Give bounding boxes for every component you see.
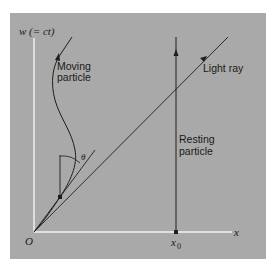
spacetime-diagram: w (= ct) O x x 0 Moving particle Light r… <box>0 0 278 272</box>
w-axis-label: w (= ct) <box>19 25 55 38</box>
angle-theta-label: θ <box>81 152 86 162</box>
diagram-panel <box>10 13 266 259</box>
moving-particle-label-line2: particle <box>57 71 91 83</box>
resting-particle-label-line2: particle <box>179 145 213 157</box>
x0-label: x <box>170 236 176 248</box>
x-axis-label: x <box>233 226 239 238</box>
origin-label: O <box>25 235 33 247</box>
light-ray-label: Light ray <box>203 62 244 74</box>
x0-subscript: 0 <box>177 242 181 251</box>
x0-point <box>174 230 178 234</box>
resting-particle-label-line1: Resting <box>179 133 215 145</box>
